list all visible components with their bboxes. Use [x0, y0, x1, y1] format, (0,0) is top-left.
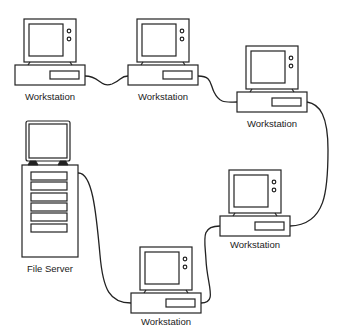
workstation-5-label: Workstation	[141, 316, 191, 327]
workstation-2-label: Workstation	[138, 91, 188, 102]
workstation-4-label: Workstation	[230, 239, 280, 250]
computer-icon	[220, 170, 290, 236]
file-server-label: File Server	[27, 263, 73, 274]
cable-ws2-ws3	[198, 76, 237, 102]
workstation-2: Workstation	[128, 19, 198, 102]
workstation-3: Workstation	[237, 46, 307, 129]
server-icon	[22, 121, 78, 257]
workstation-5: Workstation	[131, 247, 201, 327]
workstation-3-label: Workstation	[247, 118, 297, 129]
cable-fs-ws5	[78, 173, 131, 303]
workstation-1: Workstation	[15, 19, 85, 102]
computer-icon	[237, 46, 307, 112]
workstation-1-label: Workstation	[25, 91, 75, 102]
computer-icon	[15, 19, 85, 85]
network-diagram: Workstation Workstation Workstation Work…	[0, 0, 346, 336]
computer-icon	[128, 19, 198, 85]
cable-ws1-ws2	[85, 76, 128, 85]
computer-icon	[131, 247, 201, 313]
file-server: File Server	[22, 121, 78, 274]
cable-ws4-ws5	[201, 226, 220, 303]
workstation-4: Workstation	[220, 170, 290, 250]
